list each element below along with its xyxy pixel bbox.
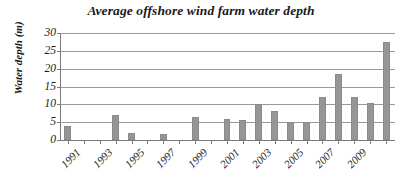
- bar-chart: Average offshore wind farm water depth W…: [0, 0, 402, 189]
- bar: [351, 97, 358, 140]
- x-tick-label-1993: 1993: [82, 146, 115, 179]
- x-tick-label-1999: 1999: [177, 146, 210, 179]
- y-axis-label: Water depth (m): [12, 8, 24, 108]
- y-axis-tick-labels: 051015202530: [24, 33, 56, 140]
- bar: [271, 111, 278, 140]
- bar: [303, 122, 310, 140]
- x-axis-tick-labels: 1991199319951997199920012003200520072009: [60, 141, 394, 189]
- x-tickmark: [307, 141, 308, 144]
- chart-title: Average offshore wind farm water depth: [0, 3, 402, 19]
- y-tick-label-15: 15: [24, 81, 56, 93]
- bar: [128, 133, 135, 140]
- x-tick-label-1991: 1991: [50, 146, 83, 179]
- bar: [239, 120, 246, 140]
- bars-layer: [60, 33, 394, 140]
- bar: [255, 104, 262, 140]
- bar: [287, 122, 294, 140]
- bar: [64, 126, 71, 140]
- x-tickmark: [179, 141, 180, 144]
- x-tickmark: [68, 141, 69, 144]
- x-tickmark: [322, 141, 323, 144]
- x-tick-label-2009: 2009: [336, 146, 369, 179]
- y-tick-label-25: 25: [24, 45, 56, 57]
- y-tick-label-10: 10: [24, 99, 56, 111]
- bar: [192, 117, 199, 140]
- x-tick-label-1995: 1995: [114, 146, 147, 179]
- x-tickmark: [195, 141, 196, 144]
- x-tickmark: [259, 141, 260, 144]
- bar: [160, 134, 167, 140]
- x-tickmark: [243, 141, 244, 144]
- y-tick-label-30: 30: [24, 27, 56, 39]
- y-tick-label-20: 20: [24, 63, 56, 75]
- x-tickmark: [227, 141, 228, 144]
- y-tick-label-0: 0: [24, 134, 56, 146]
- x-tickmark: [100, 141, 101, 144]
- x-tickmark: [84, 141, 85, 144]
- bar: [335, 74, 342, 140]
- x-tick-label-1997: 1997: [145, 146, 178, 179]
- x-tickmark: [147, 141, 148, 144]
- x-tick-label-2005: 2005: [273, 146, 306, 179]
- x-tickmark: [211, 141, 212, 144]
- bar: [112, 115, 119, 140]
- bar: [367, 103, 374, 140]
- x-tickmark: [275, 141, 276, 144]
- x-tickmark: [386, 141, 387, 144]
- x-tickmark: [163, 141, 164, 144]
- bar: [319, 97, 326, 140]
- x-tickmark: [116, 141, 117, 144]
- x-tick-label-2003: 2003: [241, 146, 274, 179]
- x-tickmark: [291, 141, 292, 144]
- x-tickmark: [354, 141, 355, 144]
- x-tickmark: [370, 141, 371, 144]
- bar: [383, 42, 390, 140]
- y-tick-label-5: 5: [24, 116, 56, 128]
- x-tick-label-2007: 2007: [304, 146, 337, 179]
- bar: [224, 119, 231, 140]
- x-tick-label-2001: 2001: [209, 146, 242, 179]
- x-tickmark: [338, 141, 339, 144]
- x-tickmark: [132, 141, 133, 144]
